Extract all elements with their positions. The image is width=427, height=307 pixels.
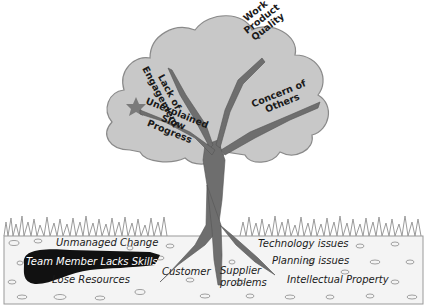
label-customer: Customer bbox=[162, 266, 211, 277]
label-planning-issues: Planning issues bbox=[272, 255, 349, 266]
label-lose-resources: Lose Resources bbox=[52, 274, 130, 285]
label-supplier-problems: Supplier problems bbox=[220, 265, 267, 289]
label-technology-issues: Technology issues bbox=[258, 238, 349, 249]
label-line: Supplier bbox=[220, 265, 267, 277]
label-team-member-lacks-skills: Team Member Lacks Skills bbox=[26, 256, 157, 267]
label-intellectual-property: Intellectual Property bbox=[287, 274, 389, 285]
label-unmanaged-change: Unmanaged Change bbox=[56, 237, 158, 248]
label-line: problems bbox=[220, 277, 267, 289]
